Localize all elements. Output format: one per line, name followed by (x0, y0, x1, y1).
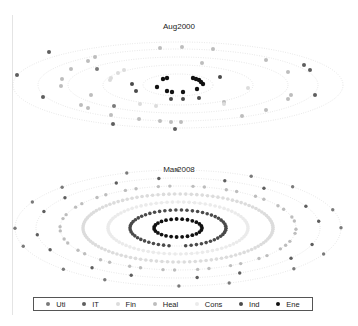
data-point-heal (293, 232, 296, 235)
data-point-fin (238, 252, 242, 256)
data-point-cons (152, 251, 156, 255)
data-point-fin (250, 248, 254, 252)
data-point-uti (31, 200, 34, 203)
data-point-ene (160, 220, 164, 224)
data-point-heal (104, 193, 107, 196)
data-point-heal (99, 258, 102, 261)
data-point-fin (239, 201, 243, 205)
data-point-fin (193, 260, 197, 264)
legend-item-heal: Heal (153, 300, 178, 309)
data-point-fin (206, 194, 210, 198)
data-point-fin (145, 194, 149, 198)
data-point-ene (169, 217, 173, 221)
data-point-fin (162, 193, 166, 197)
data-point-cons (228, 244, 232, 248)
data-point-fin (242, 251, 246, 255)
data-point-heal (279, 247, 282, 250)
data-point-cons (233, 211, 237, 215)
data-point-it (130, 274, 133, 277)
data-point-heal (286, 97, 290, 101)
data-point-heal (240, 114, 244, 118)
data-point-ind (213, 215, 217, 219)
data-point-cons (157, 251, 161, 255)
data-point-ene (199, 224, 203, 228)
data-point-ind (152, 242, 156, 246)
data-point-heal (288, 240, 291, 243)
legend-marker-icon (153, 302, 157, 306)
data-point-ind (224, 226, 228, 230)
data-point-heal (79, 103, 83, 107)
data-point-cons (198, 202, 202, 206)
legend-marker-icon (239, 302, 243, 306)
data-point-ene (195, 87, 199, 91)
data-point-cons (179, 252, 183, 256)
data-point-fin (115, 252, 119, 256)
data-point-heal (86, 59, 90, 63)
data-point-heal (191, 185, 194, 188)
data-point-heal (137, 117, 141, 121)
data-point-ind (153, 210, 157, 214)
data-point-uti (112, 104, 116, 108)
data-point-it (289, 257, 292, 260)
data-point-it (173, 127, 177, 131)
data-point-heal (203, 185, 206, 188)
data-point-ene (155, 85, 159, 89)
data-point-cons (220, 247, 224, 251)
data-point-heal (74, 205, 77, 208)
data-point-cons (173, 252, 177, 256)
data-point-cons (119, 211, 123, 215)
data-point-uti (125, 171, 128, 174)
data-point-it (42, 210, 45, 213)
data-point-fin (188, 260, 192, 264)
data-point-cons (201, 251, 205, 255)
data-point-cons (232, 242, 236, 246)
data-point-heal (83, 252, 86, 255)
data-point-it (157, 177, 160, 180)
data-point-heal (76, 249, 79, 252)
data-point-ind (196, 210, 200, 214)
data-point-fin (122, 68, 126, 72)
legend-item-ind: Ind (239, 300, 259, 309)
data-point-ind (184, 244, 188, 248)
data-point-heal (265, 254, 268, 257)
data-point-it (115, 181, 118, 184)
data-point-heal (169, 120, 173, 124)
data-point-fin (182, 260, 186, 264)
data-point-it (15, 73, 19, 77)
data-point-fin (144, 258, 148, 262)
data-point-ind (216, 236, 220, 240)
data-point-cons (230, 210, 234, 214)
data-point-fin (246, 86, 250, 90)
data-point-fin (256, 244, 260, 248)
data-point-ene (190, 219, 194, 223)
data-point-ind (143, 239, 147, 243)
data-point-heal (66, 241, 69, 244)
data-point-cons (135, 205, 139, 209)
data-point-fin (119, 253, 123, 257)
data-point-fin (138, 102, 142, 106)
data-point-ind (205, 212, 209, 216)
data-point-fin (140, 195, 144, 199)
data-point-heal (264, 108, 268, 112)
data-point-ind (200, 242, 204, 246)
data-point-heal (293, 219, 296, 222)
data-point-uti (175, 168, 178, 171)
data-point-fin (211, 195, 215, 199)
data-point-cons (171, 200, 175, 204)
data-point-fin (149, 259, 153, 263)
data-point-heal (157, 185, 160, 188)
data-point-heal (108, 261, 111, 264)
data-point-heal (180, 45, 184, 49)
data-point-fin (171, 260, 175, 264)
data-point-ind (136, 216, 140, 220)
data-point-fin (156, 193, 160, 197)
data-point-cons (224, 245, 228, 249)
data-point-cons (222, 207, 226, 211)
data-point-heal (128, 265, 131, 268)
data-point-fin (116, 71, 120, 75)
data-point-fin (166, 260, 170, 264)
data-point-fin (204, 259, 208, 263)
data-point-heal (257, 257, 260, 260)
data-point-fin (100, 246, 104, 250)
data-point-fin (189, 193, 193, 197)
